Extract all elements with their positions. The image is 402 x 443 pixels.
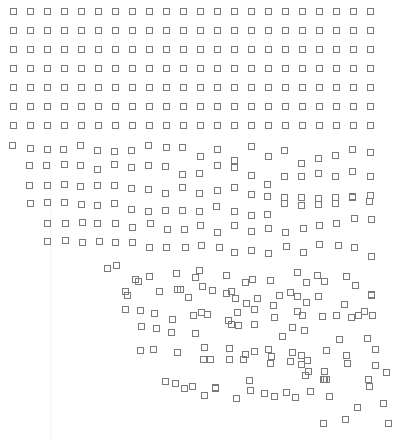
scattered-square [79, 239, 86, 246]
scattered-square [112, 220, 119, 227]
scattered-square [385, 420, 392, 427]
scattered-square [104, 265, 111, 272]
scattered-square [361, 308, 368, 315]
scattered-square [111, 161, 118, 168]
scattered-square [137, 347, 144, 354]
scattered-square [26, 182, 33, 189]
scattered-square [267, 360, 274, 367]
grid-square [112, 8, 119, 15]
scattered-square [162, 163, 169, 170]
scattered-square [146, 273, 153, 280]
grid-square [10, 8, 17, 15]
grid-square [248, 122, 255, 129]
scattered-square [169, 316, 176, 323]
scattered-square [271, 393, 278, 400]
scattered-square [44, 199, 51, 206]
scattered-square [235, 322, 242, 329]
scattered-square [243, 300, 250, 307]
scattered-square [248, 172, 255, 179]
scattered-square [111, 182, 118, 189]
scattered-square [251, 306, 258, 313]
grid-square [44, 103, 51, 110]
generative-art-canvas [0, 0, 402, 443]
grid-square [10, 84, 17, 91]
scattered-square [271, 314, 278, 321]
scattered-square [367, 149, 374, 156]
scattered-square [341, 301, 348, 308]
scattered-square [189, 383, 196, 390]
grid-square [350, 46, 357, 53]
scattered-square [315, 293, 322, 300]
scattered-square [151, 310, 158, 317]
scattered-square [248, 228, 255, 235]
scattered-square [61, 181, 68, 188]
grid-square [146, 65, 153, 72]
scattered-square [261, 390, 268, 397]
scattered-square [314, 272, 321, 279]
scattered-square [196, 190, 203, 197]
scattered-square [281, 173, 288, 180]
grid-square [95, 103, 102, 110]
grid-square [146, 103, 153, 110]
grid-square [367, 27, 374, 34]
grid-square [27, 122, 34, 129]
scattered-square [62, 237, 69, 244]
scattered-square [320, 420, 327, 427]
scattered-square [135, 278, 142, 285]
scattered-square [332, 152, 339, 159]
grid-square [265, 122, 272, 129]
grid-square [197, 103, 204, 110]
grid-square [180, 84, 187, 91]
grid-square [44, 122, 51, 129]
scattered-square [162, 378, 169, 385]
scattered-square [366, 198, 373, 205]
grid-square [61, 46, 68, 53]
scattered-square [364, 335, 371, 342]
grid-square [129, 65, 136, 72]
scattered-square [282, 229, 289, 236]
scattered-square [289, 349, 296, 356]
scattered-square [185, 294, 192, 301]
grid-square [197, 84, 204, 91]
scattered-square [315, 201, 322, 208]
grid-square [44, 8, 51, 15]
scattered-square [267, 277, 274, 284]
scattered-square [380, 400, 387, 407]
scattered-square [234, 309, 241, 316]
grid-square [333, 46, 340, 53]
grid-square [265, 65, 272, 72]
scattered-square [199, 283, 206, 290]
scattered-square [265, 153, 272, 160]
scattered-square [368, 253, 375, 260]
scattered-square [316, 241, 323, 248]
grid-square [163, 46, 170, 53]
grid-square [27, 8, 34, 15]
scattered-square [248, 247, 255, 254]
grid-square [129, 8, 136, 15]
scattered-square [162, 190, 169, 197]
scattered-square [248, 143, 255, 150]
grid-square [95, 8, 102, 15]
scattered-square [248, 191, 255, 198]
grid-square [350, 103, 357, 110]
scattered-square [265, 225, 272, 232]
scattered-square [307, 388, 314, 395]
grid-square [282, 103, 289, 110]
scattered-square [351, 215, 358, 222]
grid-square [316, 65, 323, 72]
grid-square [112, 103, 119, 110]
scattered-square [228, 288, 235, 295]
scattered-square [265, 346, 272, 353]
grid-square [231, 122, 238, 129]
grid-square [180, 103, 187, 110]
grid-square [316, 46, 323, 53]
grid-square [265, 27, 272, 34]
scattered-square [62, 220, 69, 227]
scattered-square [304, 357, 311, 364]
grid-square [367, 65, 374, 72]
scattered-square [113, 262, 120, 269]
scattered-square [44, 146, 51, 153]
scattered-square [248, 212, 255, 219]
grid-square [180, 8, 187, 15]
grid-square [214, 122, 221, 129]
